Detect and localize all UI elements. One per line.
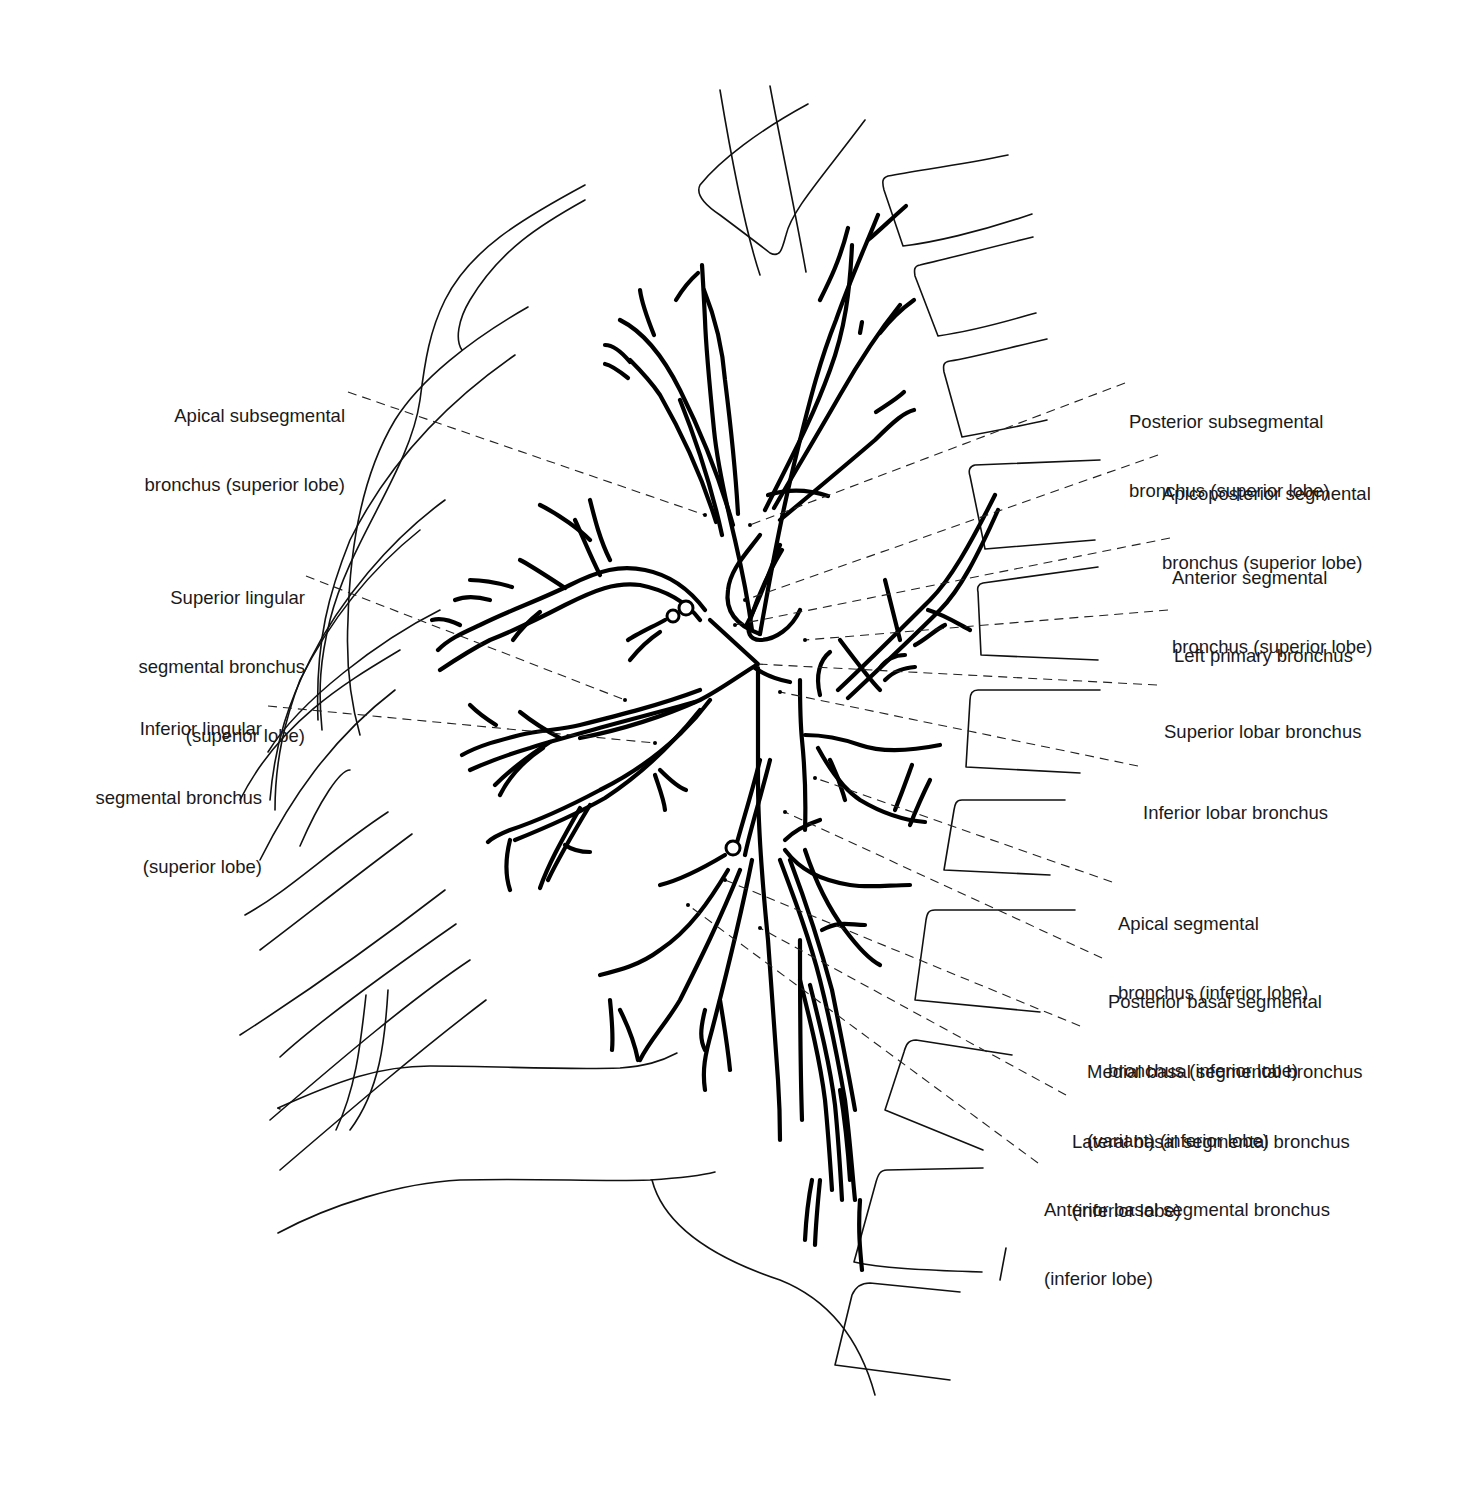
label-line: Inferior lobar bronchus: [1143, 801, 1328, 824]
label-line: Lateral basal segmental bronchus: [1072, 1130, 1350, 1153]
label-line: Inferior lingular: [95, 717, 262, 740]
diaphragm: [278, 1053, 875, 1395]
label-line: Posterior subsegmental: [1129, 410, 1330, 433]
label-inferior-lingular-segmental-bronchus: Inferior lingular segmental bronchus (su…: [95, 671, 262, 924]
label-line: Apical segmental: [1118, 912, 1308, 935]
label-line: bronchus (superior lobe): [144, 473, 345, 496]
clavicle-trachea: [699, 86, 865, 275]
bronchial-tree-figure: Apical subsegmental bronchus (superior l…: [0, 0, 1465, 1498]
label-line: Anterior basal segmental bronchus: [1044, 1198, 1330, 1221]
label-line: Posterior basal segmental: [1108, 990, 1322, 1013]
label-line: Medial basal segmental bronchus: [1087, 1060, 1363, 1083]
label-line: segmental bronchus: [95, 786, 262, 809]
label-line: Superior lingular: [138, 586, 305, 609]
bronchial-tree: [432, 206, 998, 1270]
label-line: Anterior segmental: [1172, 566, 1373, 589]
label-apical-subsegmental-bronchus: Apical subsegmental bronchus (superior l…: [144, 358, 345, 542]
label-line: (superior lobe): [95, 855, 262, 878]
label-inferior-lobar-bronchus: Inferior lobar bronchus: [1143, 755, 1328, 870]
leader-lines: [268, 383, 1170, 1163]
label-line: Apicoposterior segmental: [1162, 482, 1371, 505]
label-line: Left primary bronchus: [1174, 644, 1353, 667]
label-line: (inferior lobe): [1044, 1267, 1330, 1290]
label-line: Apical subsegmental: [144, 404, 345, 427]
label-anterior-basal-segmental-bronchus: Anterior basal segmental bronchus (infer…: [1044, 1152, 1330, 1336]
label-line: Superior lobar bronchus: [1164, 720, 1361, 743]
